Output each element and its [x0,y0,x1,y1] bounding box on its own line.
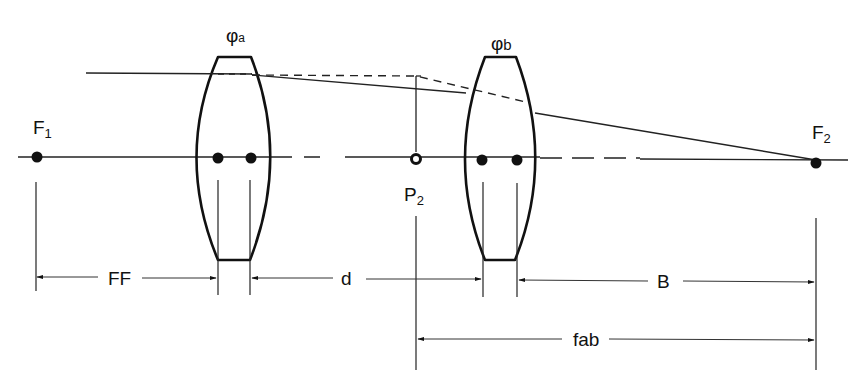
f1-label: F1 [33,117,52,141]
incident-ray [86,73,252,74]
principal-point-b2 [512,155,523,166]
dim-ff-label: FF [108,268,131,289]
dimension-lines [37,277,814,340]
f2-label: F2 [812,122,831,146]
lens-a-label: φa [226,25,245,46]
dim-b-label: B [657,271,670,292]
optical-system-diagram: φa φb F1 F2 P2 FF d B fab [0,0,863,391]
optical-axis [18,157,848,160]
extension-lines [36,180,816,370]
principal-point-b1 [477,155,488,166]
dim-d-label: d [341,268,352,289]
principal-point-a2 [246,153,257,164]
principal-point-p2 [412,155,421,164]
refracted-ray-b-f2 [535,113,816,160]
lens-b [465,57,535,260]
focal-point-f2 [811,158,822,169]
p2-label: P2 [404,184,424,208]
lens-a [197,57,271,260]
focal-point-f1 [32,152,43,163]
refracted-ray-ab [252,75,466,93]
lens-b-label: φb [491,33,512,54]
principal-point-a1 [213,153,224,164]
dim-fab-label: fab [573,329,599,350]
